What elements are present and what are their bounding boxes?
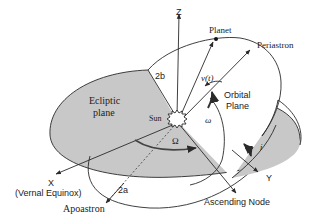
y-axis-label: Y <box>266 174 272 183</box>
Omega-label: Ω <box>172 137 179 146</box>
inclination-label: i <box>260 143 263 152</box>
vernal-equinox-label: (Vernal Equinox) <box>15 189 82 198</box>
z-axis-label: Z <box>176 8 182 17</box>
sun-label: Sun <box>149 115 161 123</box>
planet-label: Planet <box>209 26 232 35</box>
ecliptic-plane-label-2: plane <box>93 108 115 118</box>
planet-dot <box>214 37 218 41</box>
orbital-plane-label-2: Plane <box>226 102 249 111</box>
x-axis-label: X <box>48 179 54 188</box>
ecliptic-plane-label-1: Ecliptic <box>89 96 120 106</box>
periastron-label: Periastron <box>257 41 294 50</box>
ascending-node-label: Ascending Node <box>204 198 270 207</box>
orbital-elements-diagram: Z Planet Periastron 2b ν(t) Orbital Plan… <box>0 0 315 224</box>
semi-minor-label: 2b <box>155 72 165 81</box>
orbital-plane-label-1: Orbital <box>224 91 251 100</box>
semi-major-label: 2a <box>118 186 128 195</box>
apoastron-label: Apoastron <box>63 204 105 214</box>
true-anomaly-label: ν(t) <box>201 74 214 83</box>
omega-label: ω <box>205 116 211 125</box>
